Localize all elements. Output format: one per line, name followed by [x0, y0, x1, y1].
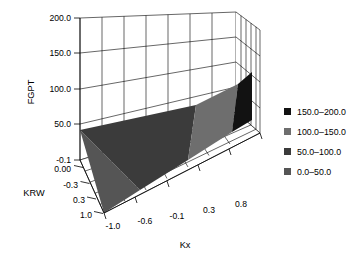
legend-swatch-1: [284, 128, 291, 135]
x-tick-label-1: -0.6: [138, 216, 153, 226]
x-tick-0: [104, 213, 106, 219]
chart-root: 200.0 150.0 100.0 50.0 -0.1 FGPT 0.00 -0…: [0, 0, 364, 270]
legend-swatch-2: [284, 148, 291, 155]
x-tick-label-4: 0.8: [235, 199, 247, 209]
legend-item-0[interactable]: 150.0–200.0: [284, 107, 346, 117]
legend-label-0: 150.0–200.0: [297, 107, 346, 117]
legend-swatch-3: [284, 168, 291, 175]
y-tick-0: [74, 166, 83, 168]
z-tick-label-200: 200.0: [49, 13, 71, 23]
z-axis-title: FGPT: [26, 79, 36, 104]
z-axis: 200.0 150.0 100.0 50.0 -0.1 FGPT: [26, 13, 80, 165]
y-tick-3: [94, 212, 103, 214]
legend-swatch-0: [284, 108, 291, 115]
x-tick-2: [167, 181, 169, 187]
z-tick-label-50: 50.0: [54, 119, 71, 129]
y-tick-1: [81, 182, 90, 184]
legend-label-2: 50.0–100.0: [297, 147, 341, 157]
y-tick-label-2: 0.3: [73, 195, 85, 205]
x-tick-label-0: -1.0: [106, 221, 121, 231]
x-tick-1: [135, 197, 137, 203]
y-tick-2: [87, 197, 96, 199]
x-tick-4: [229, 149, 231, 155]
y-tick-label-1: -0.3: [63, 180, 78, 190]
y-tick-label-0: 0.00: [54, 164, 71, 174]
legend-label-3: 0.0–50.0: [297, 167, 331, 177]
surface-chart-svg: 200.0 150.0 100.0 50.0 -0.1 FGPT 0.00 -0…: [0, 0, 364, 270]
y-axis-title: KRW: [23, 188, 45, 198]
x-tick-label-2: -0.1: [170, 211, 185, 221]
legend-label-1: 100.0–150.0: [297, 127, 346, 137]
x-tick-5: [260, 133, 262, 139]
legend-item-2[interactable]: 50.0–100.0: [284, 147, 341, 157]
x-tick-label-3: 0.3: [203, 205, 215, 215]
z-tick-label-150: 150.0: [49, 48, 71, 58]
x-axis-title: Kx: [180, 240, 191, 250]
z-tick-label-100: 100.0: [49, 84, 71, 94]
legend: 150.0–200.0 100.0–150.0 50.0–100.0 0.0–5…: [284, 107, 346, 177]
legend-item-1[interactable]: 100.0–150.0: [284, 127, 346, 137]
x-tick-3: [198, 165, 200, 171]
y-tick-label-3: 1.0: [80, 210, 92, 220]
legend-item-3[interactable]: 0.0–50.0: [284, 167, 331, 177]
